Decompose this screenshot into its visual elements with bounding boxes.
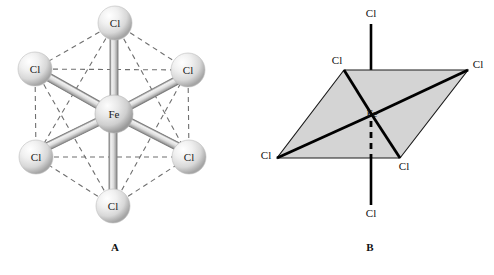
atom-b-cl-axial-bottom[interactable]: Cl: [366, 207, 376, 219]
atom-b-cl-front-left[interactable]: Cl: [261, 149, 271, 161]
atom-label-b-cl-back-left: Cl: [332, 54, 342, 66]
sphere-cl-upper-right: [171, 53, 205, 87]
atom-b-cl-front-right[interactable]: Cl: [399, 160, 409, 172]
atom-spheres-group: Cl Cl Cl Cl Cl: [18, 6, 206, 223]
atom-fe-center[interactable]: Fe: [95, 95, 133, 133]
atom-label-b-cl-front-right: Cl: [399, 160, 409, 172]
panel-a-caption: A: [95, 241, 135, 253]
atom-cl-upper-left[interactable]: Cl: [18, 52, 52, 86]
sphere-cl-lower-right: [172, 140, 206, 174]
panel-b-svg: Cl Cl Cl Fe Cl Cl Cl: [247, 0, 494, 275]
sphere-fe-center: [95, 95, 133, 133]
atom-cl-bottom[interactable]: Cl: [96, 189, 130, 223]
atom-b-cl-back-left[interactable]: Cl: [332, 54, 342, 66]
atom-cl-top[interactable]: Cl: [98, 6, 132, 40]
panel-b-polyhedral: Cl Cl Cl Fe Cl Cl Cl: [247, 0, 494, 275]
atom-cl-upper-right[interactable]: Cl: [171, 53, 205, 87]
atom-cl-lower-left[interactable]: Cl: [19, 140, 53, 174]
sphere-cl-upper-left: [18, 52, 52, 86]
sphere-cl-top: [98, 6, 132, 40]
atom-label-b-cl-axial-top: Cl: [366, 7, 376, 19]
atom-cl-lower-right[interactable]: Cl: [172, 140, 206, 174]
atom-label-b-cl-axial-bottom: Cl: [366, 207, 376, 219]
atom-b-cl-back-right[interactable]: Cl: [473, 58, 483, 70]
atom-b-cl-axial-top[interactable]: Cl: [366, 7, 376, 19]
sphere-cl-lower-left: [19, 140, 53, 174]
atom-label-b-cl-front-left: Cl: [261, 149, 271, 161]
atom-label-b-cl-back-right: Cl: [473, 58, 483, 70]
sphere-cl-bottom: [96, 189, 130, 223]
panel-a-svg: Cl Cl Cl Cl Cl: [0, 0, 247, 275]
atom-b-fe-center[interactable]: Fe: [367, 107, 378, 119]
panel-a-ball-and-stick: Cl Cl Cl Cl Cl: [0, 0, 247, 275]
atom-label-b-fe-center: Fe: [367, 107, 378, 119]
panel-b-caption: B: [350, 241, 390, 253]
figure-root: Cl Cl Cl Cl Cl: [0, 0, 494, 275]
